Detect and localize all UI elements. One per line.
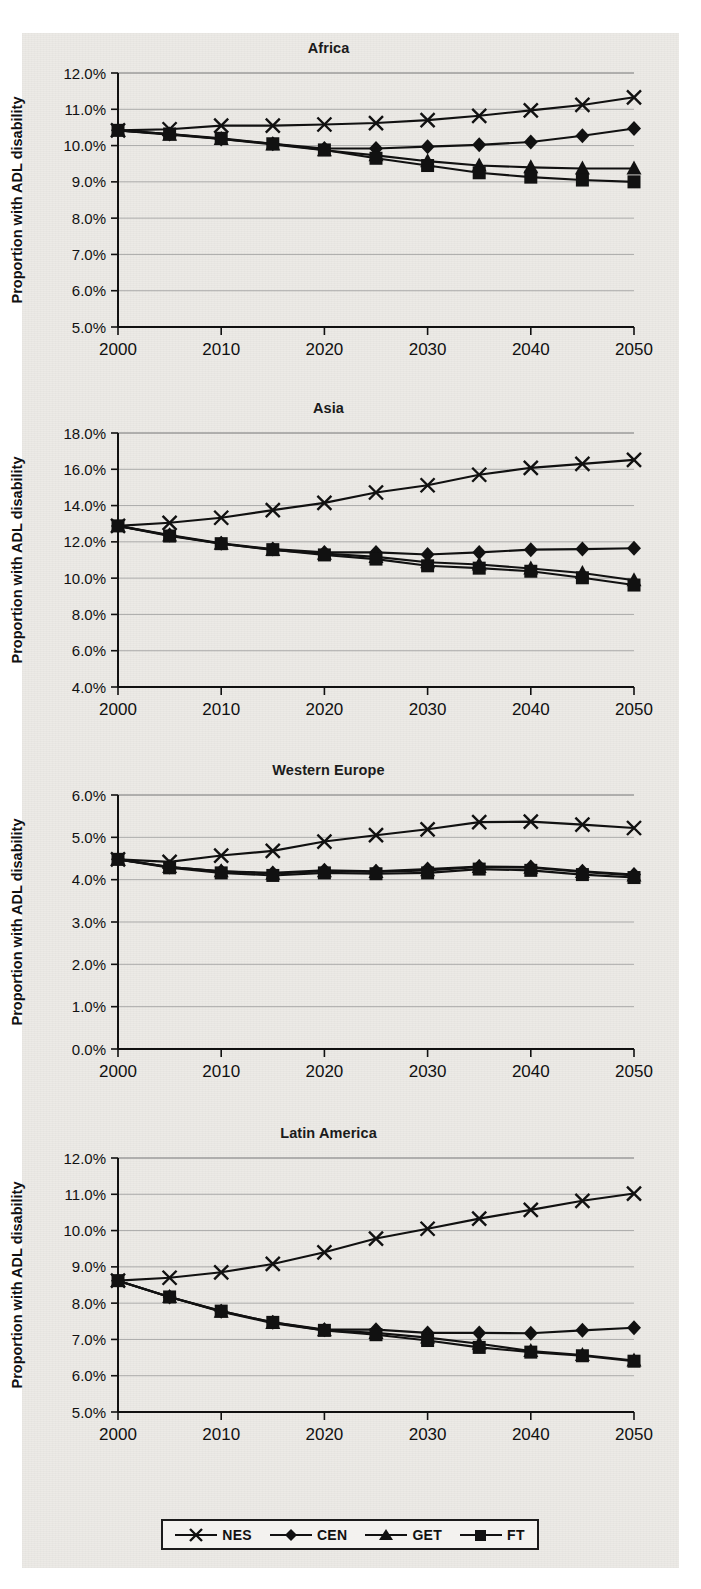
- square-marker: [421, 1334, 434, 1347]
- diamond-marker: [627, 1320, 641, 1335]
- square-marker: [576, 1349, 589, 1362]
- x-axis-tick-label: 2010: [202, 340, 240, 359]
- square-marker: [266, 1316, 279, 1329]
- y-axis-tick-label: 8.0%: [72, 1295, 106, 1312]
- chart-title-asia: Asia: [0, 400, 657, 419]
- legend-item-nes[interactable]: NES: [166, 1527, 261, 1543]
- y-axis-label: Proportion with ADL disability: [9, 818, 25, 1025]
- x-axis-tick-label: 2040: [512, 1062, 550, 1081]
- y-axis-tick-label: 12.0%: [63, 65, 106, 82]
- diamond-marker: [524, 542, 538, 557]
- square-marker: [266, 869, 279, 882]
- series-nes: [111, 1187, 641, 1288]
- square-marker: [112, 1274, 125, 1287]
- x-axis-tick-label: 2000: [99, 700, 137, 719]
- series-ft: [112, 1274, 641, 1368]
- legend-label-ft: FT: [507, 1527, 525, 1543]
- series-line: [118, 97, 634, 130]
- square-marker: [318, 548, 331, 561]
- x-marker: [317, 1245, 331, 1259]
- square-marker: [318, 1324, 331, 1337]
- diamond-marker: [472, 137, 486, 152]
- y-axis-tick-label: 11.0%: [65, 101, 106, 118]
- y-axis-tick-label: 4.0%: [72, 871, 106, 888]
- y-axis-tick-label: 9.0%: [72, 173, 106, 190]
- square-marker: [524, 864, 537, 877]
- y-axis-tick-label: 4.0%: [72, 679, 106, 696]
- square-marker: [421, 866, 434, 879]
- figure-page: Africa Proportion with ADL disability12.…: [0, 0, 701, 1589]
- y-axis-tick-label: 1.0%: [72, 998, 106, 1015]
- square-marker: [163, 127, 176, 140]
- square-marker: [266, 543, 279, 556]
- y-axis-tick-label: 16.0%: [63, 461, 106, 478]
- series-get: [111, 122, 642, 174]
- y-axis-tick-label: 11.0%: [65, 1186, 106, 1203]
- x-axis-tick-label: 2020: [305, 700, 343, 719]
- series-get: [111, 1273, 642, 1367]
- x-axis-tick-label: 2000: [99, 340, 137, 359]
- x-axis-tick-label: 2010: [202, 700, 240, 719]
- triangle-marker-icon: [365, 1527, 407, 1543]
- square-marker: [421, 559, 434, 572]
- series-nes: [111, 815, 641, 869]
- y-axis-label: Proportion with ADL disability: [9, 96, 25, 303]
- square-marker: [215, 132, 228, 145]
- x-axis-tick-label: 2050: [615, 700, 653, 719]
- x-axis-tick-label: 2000: [99, 1425, 137, 1444]
- diamond-marker: [627, 541, 641, 556]
- chart-title-latin-america: Latin America: [0, 1125, 657, 1144]
- x-marker-icon: [175, 1527, 217, 1543]
- diamond-marker: [524, 134, 538, 149]
- square-marker: [576, 174, 589, 187]
- series-line: [118, 1281, 634, 1361]
- chart-panel-africa: Africa Proportion with ADL disability12.…: [0, 40, 657, 377]
- series-nes: [111, 453, 641, 533]
- diamond-marker: [627, 121, 641, 136]
- chart-panel-latin-america: Latin America Proportion with ADL disabi…: [0, 1125, 657, 1462]
- square-marker: [473, 863, 486, 876]
- square-marker: [576, 868, 589, 881]
- x-axis-tick-label: 2030: [409, 700, 447, 719]
- diamond-marker: [575, 542, 589, 557]
- y-axis-tick-label: 5.0%: [72, 829, 106, 846]
- chart-area-latin-america: Proportion with ADL disability12.0%11.0%…: [0, 1144, 657, 1462]
- x-axis-tick-label: 2010: [202, 1425, 240, 1444]
- square-marker: [215, 866, 228, 879]
- square-marker: [628, 871, 641, 884]
- y-axis-tick-label: 10.0%: [63, 1222, 106, 1239]
- series-ft: [112, 519, 641, 591]
- y-axis-tick-label: 12.0%: [63, 1150, 106, 1167]
- square-marker: [163, 1290, 176, 1303]
- legend-item-ft[interactable]: FT: [451, 1527, 534, 1543]
- x-axis-tick-label: 2040: [512, 340, 550, 359]
- chart-title-africa: Africa: [0, 40, 657, 59]
- y-axis-tick-label: 3.0%: [72, 914, 106, 931]
- chart-panel-asia: Asia Proportion with ADL disability18.0%…: [0, 400, 657, 737]
- square-marker: [421, 159, 434, 172]
- legend-item-get[interactable]: GET: [356, 1527, 451, 1543]
- chart-area-western-europe: Proportion with ADL disability6.0%5.0%4.…: [0, 781, 657, 1099]
- line-chart-africa: Proportion with ADL disability12.0%11.0%…: [0, 59, 657, 377]
- square-marker: [112, 519, 125, 532]
- y-axis-tick-label: 6.0%: [72, 642, 106, 659]
- square-marker: [576, 571, 589, 584]
- y-axis-tick-label: 8.0%: [72, 606, 106, 623]
- y-axis-tick-label: 6.0%: [72, 1367, 106, 1384]
- line-chart-asia: Proportion with ADL disability18.0%16.0%…: [0, 419, 657, 737]
- diamond-marker: [421, 139, 435, 154]
- legend-item-cen[interactable]: CEN: [261, 1527, 356, 1543]
- square-marker: [266, 137, 279, 150]
- y-axis-tick-label: 6.0%: [72, 282, 106, 299]
- square-marker-icon: [460, 1527, 502, 1543]
- x-axis-tick-label: 2030: [409, 1425, 447, 1444]
- square-marker: [112, 853, 125, 866]
- square-marker: [628, 1355, 641, 1368]
- y-axis-tick-label: 14.0%: [63, 497, 106, 514]
- x-axis-tick-label: 2000: [99, 1062, 137, 1081]
- square-marker: [215, 537, 228, 550]
- series-line: [118, 822, 634, 862]
- x-axis-tick-label: 2040: [512, 700, 550, 719]
- line-chart-western-europe: Proportion with ADL disability6.0%5.0%4.…: [0, 781, 657, 1099]
- y-axis-tick-label: 0.0%: [72, 1041, 106, 1058]
